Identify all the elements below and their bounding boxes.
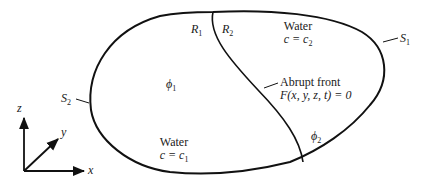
z-axis-label: z: [17, 102, 22, 115]
water-region-2-label: Water c = c2: [268, 20, 328, 50]
s1-leader: [383, 38, 398, 42]
region-label-r2: R2: [222, 23, 233, 40]
potential-label-phi1: ϕ1: [166, 78, 176, 95]
y-axis-arrow: [24, 139, 58, 171]
s2-leader: [76, 99, 89, 103]
y-axis-label: y: [61, 126, 66, 139]
boundary-label-s2: S2: [61, 92, 71, 109]
abrupt-front-label: Abrupt front F(x, y, z, t) = 0: [280, 76, 351, 102]
region-label-r1: R1: [191, 23, 202, 40]
boundary-label-s1: S1: [400, 32, 410, 49]
x-axis-label: x: [88, 164, 93, 177]
water-1-concentration: c = c1: [144, 149, 204, 166]
front-leader: [264, 83, 278, 88]
water-region-1-label: Water c = c1: [144, 136, 204, 166]
water-2-concentration: c = c2: [268, 33, 328, 50]
diagram-canvas: R1 R2 Water c = c2 S1 S2 ϕ1 Abrupt front…: [0, 0, 426, 184]
potential-label-phi2: ϕ2: [311, 130, 321, 147]
abrupt-front-equation: F(x, y, z, t) = 0: [280, 89, 351, 102]
